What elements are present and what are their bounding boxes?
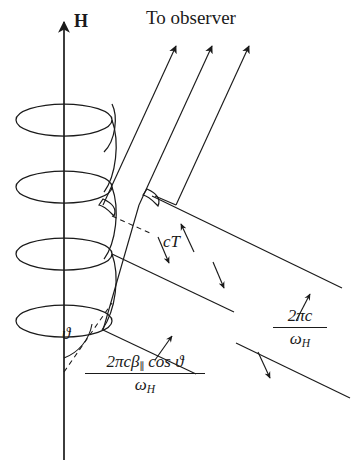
ray-2-lower xyxy=(103,205,139,330)
ray-2 xyxy=(139,46,212,205)
wavelength-den-omega: ω xyxy=(290,329,302,348)
helix-trajectory xyxy=(16,104,116,337)
to-observer-label: To observer xyxy=(146,8,236,27)
pitch-formula-denominator: ωH xyxy=(84,374,206,396)
light-path-label: cT xyxy=(163,233,180,250)
pitch-formula-numerator: 2πcβ∥ cos ϑ xyxy=(84,352,206,373)
pitch-num-cos: cos ϑ xyxy=(148,352,183,371)
pitch-den-subscript: H xyxy=(147,383,155,396)
wavefront-middle-upper xyxy=(112,254,234,312)
wavelength-formula-denominator: ωH xyxy=(272,328,328,350)
wavelength-den-subscript: H xyxy=(302,337,310,350)
wavelength-formula: 2πc ωH xyxy=(272,306,328,350)
wavefront-outer-lower xyxy=(236,343,350,398)
magnetic-field-label: H xyxy=(74,12,88,30)
pitch-num-lead: 2πcβ xyxy=(106,352,139,371)
construction-dashed-lines xyxy=(64,216,152,372)
wavelength-formula-numerator: 2πc xyxy=(272,306,328,327)
helix-arrowhead-upper xyxy=(99,199,115,216)
ray-3 xyxy=(176,46,249,205)
pitch-formula: 2πcβ∥ cos ϑ ωH xyxy=(84,352,206,396)
angle-theta-label: ϑ xyxy=(62,325,70,342)
wavefront-outer xyxy=(152,196,342,288)
cT-arrow-down-2 xyxy=(213,262,224,288)
pitch-den-omega: ω xyxy=(135,375,147,394)
observer-rays xyxy=(103,46,249,205)
cT-arrow-up xyxy=(181,224,194,252)
